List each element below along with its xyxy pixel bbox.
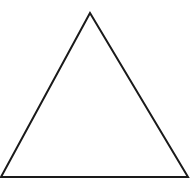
- triangle-diagram: [0, 0, 190, 189]
- triangle-shape: [1, 13, 188, 177]
